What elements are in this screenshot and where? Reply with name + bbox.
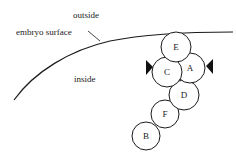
cell-e: E — [161, 32, 191, 62]
cell-b: B — [132, 122, 160, 150]
diagram-canvas: outside embryo surface inside B F D A C — [0, 0, 236, 158]
cell-c-label: C — [164, 67, 170, 77]
outside-label: outside — [73, 10, 99, 20]
embryo-diagram-figure: outside embryo surface inside B F D A C — [0, 0, 236, 158]
embryo-surface-label: embryo surface — [16, 27, 72, 37]
inside-label: inside — [74, 74, 96, 84]
right-arrow-icon — [206, 59, 213, 74]
cell-e-label: E — [173, 42, 179, 52]
cell-a-label: A — [187, 63, 194, 73]
embryo-surface-leader-line — [88, 31, 100, 41]
cell-b-label: B — [143, 131, 149, 141]
cell-d-label: D — [181, 90, 188, 100]
cell-f-label: F — [162, 109, 167, 119]
